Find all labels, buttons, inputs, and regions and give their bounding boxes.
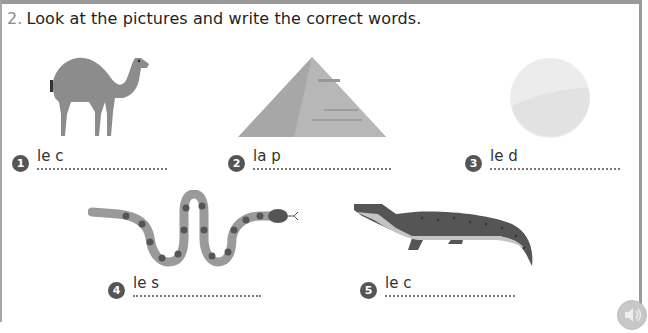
camel-picture: [45, 52, 151, 138]
word-prefix: le c: [385, 274, 411, 292]
item-number-badge: 1: [12, 155, 29, 172]
answer-field-2[interactable]: la p: [253, 146, 391, 170]
word-prefix: le d: [490, 147, 518, 165]
answer-item-4: 4 le s: [108, 273, 261, 297]
word-prefix: le s: [133, 274, 159, 292]
item-number-badge: 4: [108, 282, 125, 299]
answer-field-3[interactable]: le d: [490, 146, 620, 170]
exercise-title: 2.Look at the pictures and write the cor…: [7, 9, 421, 28]
snake-picture: [88, 190, 300, 270]
answer-item-2: 2 la p: [228, 146, 391, 170]
answer-item-5: 5 le c: [360, 273, 515, 297]
pyramid-picture: [238, 57, 386, 137]
exercise-instruction: Look at the pictures and write the corre…: [26, 9, 421, 28]
answer-field-5[interactable]: le c: [385, 273, 515, 297]
crocodile-picture: [352, 198, 538, 270]
answer-field-4[interactable]: le s: [133, 273, 261, 297]
sun-picture: [510, 58, 590, 138]
item-number-badge: 3: [465, 155, 482, 172]
speaker-icon: [618, 301, 646, 329]
item-number-badge: 2: [228, 155, 245, 172]
answer-item-3: 3 le d: [465, 146, 620, 170]
word-prefix: le c: [37, 147, 63, 165]
exercise-number: 2.: [7, 9, 22, 28]
item-number-badge: 5: [360, 282, 377, 299]
answer-item-1: 1 le c: [12, 146, 167, 170]
word-prefix: la p: [253, 147, 281, 165]
answer-field-1[interactable]: le c: [37, 146, 167, 170]
audio-play-button[interactable]: [617, 300, 647, 330]
